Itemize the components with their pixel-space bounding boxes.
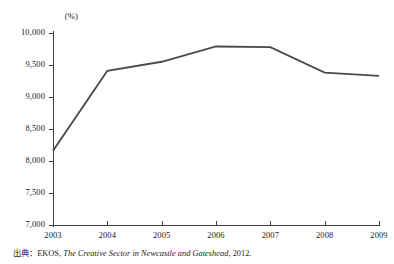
y-axis-tick-label: 8,000 [25,155,45,165]
data-series-line [53,33,379,225]
y-axis-tick-label: 10,000 [21,27,45,37]
y-axis: 7,0007,5008,0008,5009,0009,50010,000 [0,0,53,264]
plot-area [53,33,379,225]
y-axis-tick-label: 7,000 [25,219,45,229]
source-suffix: , 2012. [228,249,251,258]
x-axis-tick-mark [379,221,380,225]
x-axis-tick-label: 2003 [44,230,61,240]
x-axis-tick-label: 2005 [153,230,170,240]
line-chart-figure: (%) 7,0007,5008,0008,5009,0009,50010,000… [0,0,394,264]
series-polyline [53,46,379,150]
x-axis-tick-label: 2009 [370,230,387,240]
y-axis-tick-label: 9,000 [25,91,45,101]
y-axis-tick-label: 9,500 [25,59,45,69]
x-axis-tick-label: 2006 [207,230,224,240]
x-axis-tick-label: 2007 [262,230,279,240]
x-axis-tick-label: 2008 [316,230,333,240]
source-note: 出典：EKOS, The Creative Sector in Newcastl… [13,246,252,258]
y-axis-tick-label: 7,500 [25,187,45,197]
source-prefix: 出典：EKOS, [13,249,63,258]
source-title: The Creative Sector in Newcastle and Gat… [63,249,228,258]
x-axis-tick-label: 2004 [99,230,116,240]
y-axis-tick-label: 8,500 [25,123,45,133]
